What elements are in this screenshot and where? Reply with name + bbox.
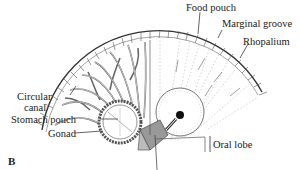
label-gonad: Gonad [48,128,76,139]
stomach-pouch [99,101,141,143]
label-oral-lobe: Oral lobe [213,139,252,150]
label-rhopalium: Rhopalium [243,36,290,47]
jellyfish-anatomy-diagram: Food pouch Marginal groove Rhopalium Cir… [0,0,300,170]
label-circular-canal-line2: canal [24,102,46,113]
label-circular-canal-line1: Circular [17,91,51,102]
label-marginal-groove: Marginal groove [222,18,292,29]
label-food-pouch: Food pouch [186,2,236,13]
label-stomach-pouch: Stomach pouch [11,114,76,125]
panel-label: B [8,155,15,167]
